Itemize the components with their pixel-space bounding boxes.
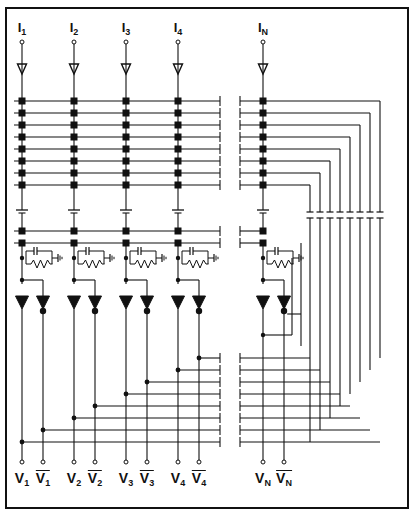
- input-label-I1: I1: [18, 20, 27, 37]
- matrix-node-r4-c4: [260, 146, 267, 153]
- driver-comp-0: [37, 296, 50, 309]
- rc-tap-dot-2: [124, 256, 128, 260]
- driver-true-2: [120, 296, 133, 309]
- driver-true-0: [16, 296, 29, 309]
- cell-tap-dot-3: [176, 278, 180, 282]
- feedback-tap-dot-V4b: [197, 356, 202, 361]
- rc-tap-dot-3: [176, 256, 180, 260]
- matrix-node-r2-c1: [71, 122, 78, 129]
- out-terminal-comp-4: [282, 460, 286, 464]
- feedback-tap-dot-V2b: [93, 404, 98, 409]
- n-feedback-dot: [261, 333, 265, 337]
- resistor-zigzag-1: [78, 260, 105, 268]
- driver-comp-dot-0: [40, 308, 46, 314]
- lower-node-r0-c0: [19, 228, 26, 235]
- out-terminal-true-1: [72, 460, 76, 464]
- matrix-node-r1-c0: [19, 110, 26, 117]
- out-terminal-true-3: [176, 460, 180, 464]
- matrix-node-r2-c4: [260, 122, 267, 129]
- matrix-node-r1-c1: [71, 110, 78, 117]
- out-terminal-comp-3: [197, 460, 201, 464]
- input-label-I3: I3: [122, 20, 131, 37]
- matrix-node-r0-c1: [71, 98, 78, 105]
- matrix-node-r6-c0: [19, 170, 26, 177]
- matrix-node-r3-c4: [260, 134, 267, 141]
- driver-comp-3: [193, 296, 206, 309]
- matrix-node-r0-c3: [175, 98, 182, 105]
- feedback-tap-dot-V1b: [41, 428, 46, 433]
- feedback-tap-dot-V3: [124, 392, 129, 397]
- output-label-VNb: VN: [276, 470, 292, 488]
- driver-true-1: [68, 296, 81, 309]
- cell-tap-dot-2: [124, 278, 128, 282]
- rc-tap-dot-0: [20, 256, 24, 260]
- cell-tap-dot-4: [261, 278, 265, 282]
- matrix-node-r4-c1: [71, 146, 78, 153]
- matrix-node-r1-c2: [123, 110, 130, 117]
- input-terminal-I3: [124, 40, 128, 44]
- input-terminal-I1: [20, 40, 24, 44]
- driver-comp-2: [141, 296, 154, 309]
- driver-comp-1: [89, 296, 102, 309]
- out-terminal-comp-1: [93, 460, 97, 464]
- input-label-I4: I4: [174, 20, 183, 37]
- lower-node-r0-c1: [71, 228, 78, 235]
- driver-comp-dot-1: [92, 308, 98, 314]
- driver-comp-dot-4: [281, 308, 287, 314]
- output-label-V1b: V1: [36, 470, 50, 488]
- lower-node-r1-c0: [19, 240, 26, 247]
- input-terminal-I2: [72, 40, 76, 44]
- output-label-V4b: V4: [192, 470, 206, 488]
- out-terminal-comp-0: [41, 460, 45, 464]
- figure-root: I1I2I3I4INV1V1V2V2V3V3V4V4VNVN: [0, 0, 416, 518]
- input-terminal-I4: [176, 40, 180, 44]
- driver-comp-dot-2: [144, 308, 150, 314]
- matrix-node-r5-c2: [123, 158, 130, 165]
- matrix-node-r7-c4: [260, 182, 267, 189]
- matrix-node-r3-c1: [71, 134, 78, 141]
- output-label-V2: V2: [67, 470, 81, 488]
- matrix-node-r3-c2: [123, 134, 130, 141]
- matrix-node-r7-c0: [19, 182, 26, 189]
- matrix-node-r7-c1: [71, 182, 78, 189]
- feedback-tap-dot-V3b: [145, 380, 150, 385]
- lower-node-r0-c3: [175, 228, 182, 235]
- lower-node-r1-c3: [175, 240, 182, 247]
- matrix-node-r5-c3: [175, 158, 182, 165]
- input-label-IN: IN: [258, 20, 268, 37]
- driver-comp-dot-3: [196, 308, 202, 314]
- driver-comp-4: [278, 296, 291, 309]
- matrix-node-r1-c3: [175, 110, 182, 117]
- out-terminal-comp-2: [145, 460, 149, 464]
- out-terminal-true-2: [124, 460, 128, 464]
- matrix-node-r3-c3: [175, 134, 182, 141]
- feedback-tap-dot-V1: [20, 440, 25, 445]
- resistor-zigzag-4: [267, 260, 294, 268]
- driver-true-4: [257, 296, 270, 309]
- matrix-node-r7-c2: [123, 182, 130, 189]
- rc-tap-dot-4: [261, 256, 265, 260]
- matrix-node-r0-c4: [260, 98, 267, 105]
- matrix-node-r5-c1: [71, 158, 78, 165]
- matrix-node-r1-c4: [260, 110, 267, 117]
- lower-node-r1-c1: [71, 240, 78, 247]
- matrix-node-r6-c4: [260, 170, 267, 177]
- resistor-zigzag-2: [130, 260, 157, 268]
- cell-tap-dot-0: [20, 278, 24, 282]
- matrix-node-r4-c2: [123, 146, 130, 153]
- feedback-tap-dot-V2: [72, 416, 77, 421]
- resistor-zigzag-0: [26, 260, 53, 268]
- matrix-node-r4-c3: [175, 146, 182, 153]
- matrix-node-r2-c3: [175, 122, 182, 129]
- matrix-node-r5-c0: [19, 158, 26, 165]
- matrix-node-r2-c2: [123, 122, 130, 129]
- driver-true-3: [172, 296, 185, 309]
- output-label-VN: VN: [255, 470, 271, 488]
- resistor-zigzag-3: [182, 260, 209, 268]
- matrix-node-r6-c1: [71, 170, 78, 177]
- output-label-V3b: V3: [140, 470, 154, 488]
- lower-node-r0-c4: [260, 228, 267, 235]
- matrix-node-r3-c0: [19, 134, 26, 141]
- matrix-node-r4-c0: [19, 146, 26, 153]
- output-label-V4: V4: [171, 470, 185, 488]
